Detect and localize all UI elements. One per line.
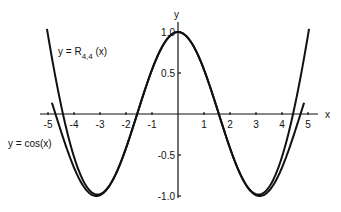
x-tick-label: -4 — [70, 119, 79, 130]
y-tick-label: -1.0 — [158, 191, 176, 202]
x-tick-label: -2 — [122, 119, 131, 130]
y-tick-label: 0.5 — [161, 68, 175, 79]
y-axis-label: y — [174, 9, 179, 20]
x-axis-label: x — [325, 109, 330, 120]
x-tick-label: -3 — [96, 119, 105, 130]
x-tick-label: -1 — [148, 119, 157, 130]
y-tick-label: 1.0 — [161, 27, 175, 38]
x-tick-label: 1 — [201, 119, 207, 130]
x-tick-label: 2 — [227, 119, 233, 130]
x-tick-label: 3 — [253, 119, 259, 130]
y-tick-label: -0.5 — [158, 150, 176, 161]
chart-canvas: -5-4-3-2-1123451.00.5-0.5-1.0 x y y = R4… — [0, 0, 341, 212]
x-tick-label: 4 — [279, 119, 285, 130]
x-tick-label: 5 — [305, 119, 311, 130]
x-tick-label: -5 — [44, 119, 53, 130]
cos-curve-label: y = cos(x) — [8, 138, 52, 149]
r44-curve-label: y = R4,4 (x) — [58, 46, 107, 61]
